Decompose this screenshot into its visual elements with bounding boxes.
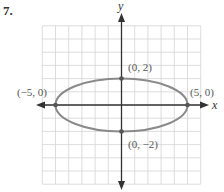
label-point-neg5-0: (−5, 0) [17, 86, 47, 99]
y-axis [118, 13, 125, 190]
label-point-0-neg2: (0, −2) [128, 138, 158, 151]
y-axis-down-arrow-icon [118, 181, 125, 190]
point-5-0 [185, 103, 190, 108]
x-axis [36, 102, 209, 109]
point-neg5-0 [53, 103, 58, 108]
x-axis-left-arrow-icon [36, 102, 45, 109]
y-axis-label: y [117, 0, 124, 13]
label-point-0-2: (0, 2) [128, 61, 152, 74]
y-axis-up-arrow-icon [118, 13, 125, 22]
point-0-neg2 [119, 129, 124, 134]
label-point-5-0: (5, 0) [190, 86, 214, 99]
x-axis-label: x [211, 98, 218, 112]
point-0-2 [119, 76, 124, 81]
x-axis-right-arrow-icon [200, 102, 209, 109]
ellipse-graph: x y (0, 2) (−5, 0) (5, 0) (0, −2) [0, 0, 224, 192]
